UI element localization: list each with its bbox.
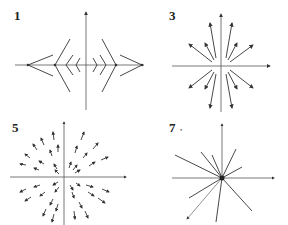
vector-field-plot-7 <box>144 112 288 225</box>
panel-5: 5 <box>0 112 144 225</box>
vector-field-plot-1 <box>0 0 144 112</box>
vector-field-plot-3 <box>144 0 288 112</box>
panel-1: 1 <box>0 0 144 112</box>
vector-field-plot-5 <box>0 112 144 225</box>
panel-7: 7 , <box>144 112 288 225</box>
panel-3: 3 <box>144 0 288 112</box>
